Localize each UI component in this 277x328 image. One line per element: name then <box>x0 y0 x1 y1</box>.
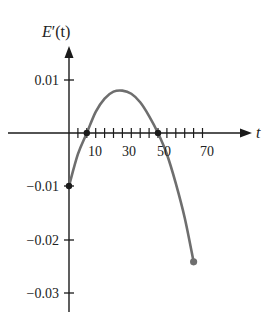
y-axis-arrow-icon <box>65 46 74 58</box>
data-point <box>66 183 72 189</box>
series-line <box>69 90 194 261</box>
chart: E′(t) t 10 30 50 70 0.01 −0.01 −0.02 −0.… <box>0 0 277 328</box>
data-point <box>155 130 161 136</box>
x-tick-label-10: 10 <box>88 144 102 159</box>
y-tick-label-neg-0.02: −0.02 <box>27 233 59 248</box>
data-point <box>190 258 197 265</box>
y-tick-label-neg-0.03: −0.03 <box>27 286 59 301</box>
x-axis-arrow-icon <box>240 129 252 138</box>
y-axis-label: E′(t) <box>41 23 70 41</box>
y-tick-label-0.01: 0.01 <box>35 73 60 88</box>
x-axis-label: t <box>256 124 261 141</box>
data-point <box>84 130 90 136</box>
x-tick-label-70: 70 <box>200 144 214 159</box>
x-tick-label-50: 50 <box>157 144 171 159</box>
x-tick-label-30: 30 <box>122 144 136 159</box>
y-tick-label-neg-0.01: −0.01 <box>27 179 59 194</box>
